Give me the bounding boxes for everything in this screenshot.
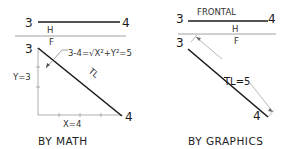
true-length-diagram: 3 4 H F 3 4 TL 3-4=√X²+Y²=5 Y=3 X=4 bbox=[0, 0, 291, 149]
left-fold-h-label: H bbox=[47, 25, 53, 35]
x-value-label: X=4 bbox=[63, 119, 81, 129]
left-true-length-line bbox=[38, 48, 122, 116]
left-fold-f-label: F bbox=[49, 37, 54, 47]
dimension-line-a bbox=[196, 37, 222, 59]
extension-line-start bbox=[191, 35, 197, 42]
right-front-start-label: 3 bbox=[176, 36, 184, 50]
left-front-start-label: 3 bbox=[25, 42, 33, 56]
right-top-end-label: 4 bbox=[268, 12, 276, 26]
right-panel: 3 FRONTAL 4 H F 3 TL=5 4 BY GRAPHICS bbox=[176, 7, 276, 147]
right-front-end-label: 4 bbox=[253, 109, 261, 123]
left-panel: 3 4 H F 3 4 TL 3-4=√X²+Y²=5 Y=3 X=4 bbox=[12, 16, 133, 147]
left-front-end-label: 4 bbox=[125, 110, 133, 124]
dimension-line-b bbox=[250, 83, 273, 112]
frontal-label: FRONTAL bbox=[197, 7, 236, 17]
right-fold-h-label: H bbox=[232, 24, 238, 34]
y-value-label: Y=3 bbox=[12, 72, 31, 82]
right-top-start-label: 3 bbox=[176, 12, 184, 26]
left-top-end-label: 4 bbox=[122, 16, 130, 30]
formula-text: 3-4=√X²+Y²=5 bbox=[68, 48, 132, 58]
right-caption: BY GRAPHICS bbox=[188, 135, 263, 147]
left-caption: BY MATH bbox=[38, 135, 88, 147]
left-tl-label: TL bbox=[86, 65, 101, 80]
left-top-start-label: 3 bbox=[25, 16, 33, 30]
tl-dimension-label: TL=5 bbox=[223, 76, 250, 87]
right-fold-f-label: F bbox=[234, 36, 239, 46]
